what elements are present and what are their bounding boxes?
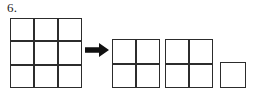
grid-cell — [11, 42, 33, 63]
grid-cell — [113, 40, 135, 63]
grid-cell — [59, 42, 81, 63]
grid-cell — [35, 19, 57, 40]
grid-cell — [137, 65, 159, 88]
grid-cell — [166, 65, 188, 88]
grid-cell — [59, 66, 81, 87]
grid-cell — [221, 63, 245, 87]
grid-cell — [59, 19, 81, 40]
result-grid-2x2-first — [112, 39, 160, 88]
grid-cell — [11, 66, 33, 87]
grid-cell — [35, 66, 57, 87]
problem-number-label: 6. — [7, 1, 17, 15]
grid-cell — [137, 40, 159, 63]
worksheet-problem-figure: 6. — [0, 0, 253, 92]
result-unit-square — [220, 62, 246, 88]
result-grid-2x2-second — [165, 39, 213, 88]
grid-cell — [113, 65, 135, 88]
arrow-right-icon — [85, 42, 109, 58]
grid-cell — [11, 19, 33, 40]
source-grid-3x3 — [10, 18, 82, 88]
grid-cell — [166, 40, 188, 63]
grid-cell — [35, 42, 57, 63]
grid-cell — [190, 65, 212, 88]
grid-cell — [190, 40, 212, 63]
